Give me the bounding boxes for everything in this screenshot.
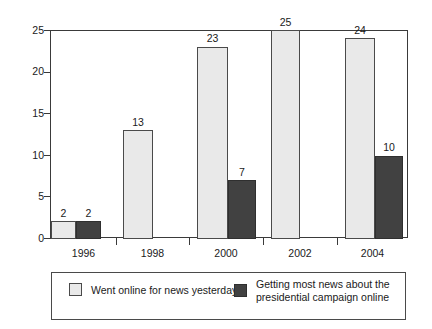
chart-legend: Went online for news yesterday Getting m… <box>51 272 406 320</box>
legend-label-went-online: Went online for news yesterday <box>91 283 237 297</box>
y-tick-label-15: 15 <box>18 108 44 119</box>
value-label-2004-went-online: 24 <box>345 25 375 36</box>
value-label-1998-went-online: 13 <box>123 117 153 128</box>
y-tick-label-5: 5 <box>18 191 44 202</box>
x-tick-mark-2 <box>189 238 190 245</box>
value-label-1996-campaign-news: 2 <box>76 208 101 219</box>
x-tick-label-2002: 2002 <box>263 248 337 259</box>
value-label-2000-went-online: 23 <box>197 33 228 44</box>
x-tick-mark-3 <box>263 238 264 245</box>
bar-1996-went-online[interactable] <box>51 221 76 238</box>
dark-gray-swatch-icon <box>234 284 247 297</box>
x-tick-label-1998: 1998 <box>116 248 189 259</box>
bar-2004-went-online[interactable] <box>345 38 375 238</box>
bar-chart-figure: 25 20 15 10 5 0 2 2 13 23 7 25 24 10 199… <box>0 0 432 329</box>
legend-entry-campaign-news[interactable]: Getting most news about the presidential… <box>234 278 390 303</box>
bar-1998-went-online[interactable] <box>123 130 153 239</box>
y-tick-mark-0 <box>44 238 51 239</box>
bar-2000-went-online[interactable] <box>197 47 228 239</box>
value-label-2002-went-online: 25 <box>271 17 300 28</box>
bar-2004-campaign-news[interactable] <box>375 156 403 239</box>
x-tick-label-2000: 2000 <box>189 248 263 259</box>
legend-entry-went-online[interactable]: Went online for news yesterday <box>69 283 237 297</box>
value-label-1996-went-online: 2 <box>51 208 76 219</box>
legend-label-campaign-news: Getting most news about the presidential… <box>256 278 390 303</box>
y-tick-label-0: 0 <box>18 233 44 244</box>
bar-2002-went-online[interactable] <box>271 30 300 239</box>
bar-1996-campaign-news[interactable] <box>76 221 101 238</box>
x-tick-mark-1 <box>116 238 117 245</box>
y-tick-label-20: 20 <box>18 66 44 77</box>
light-gray-swatch-icon <box>69 283 82 296</box>
x-tick-mark-4 <box>337 238 338 245</box>
value-label-2004-campaign-news: 10 <box>375 142 403 153</box>
y-tick-label-10: 10 <box>18 150 44 161</box>
bar-2000-campaign-news[interactable] <box>228 180 256 239</box>
value-label-2000-campaign-news: 7 <box>228 167 256 178</box>
y-tick-label-25: 25 <box>18 25 44 36</box>
x-tick-label-2004: 2004 <box>337 248 408 259</box>
x-tick-label-1996: 1996 <box>51 248 116 259</box>
